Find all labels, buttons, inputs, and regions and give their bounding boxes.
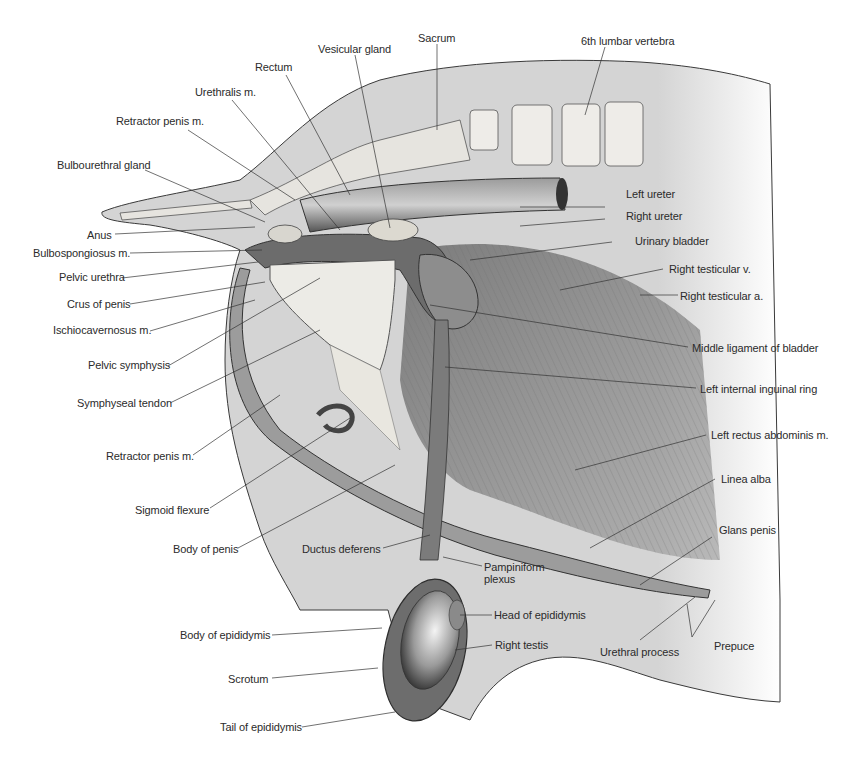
label-plexus: plexus: [484, 573, 515, 585]
label-6th-lumbar-vertebra: 6th lumbar vertebra: [581, 35, 674, 47]
label-bulbospongiosus: Bulbospongiosus m.: [33, 247, 130, 259]
label-left-rectus-abdominis: Left rectus abdominis m.: [711, 429, 828, 441]
vesicular-gland-shape: [368, 219, 418, 241]
label-linea-alba: Linea alba: [721, 473, 771, 485]
label-rectum: Rectum: [255, 61, 292, 73]
label-right-ureter: Right ureter: [626, 210, 682, 222]
label-vesicular-gland: Vesicular gland: [318, 43, 391, 55]
label-right-testicular-v: Right testicular v.: [669, 263, 751, 275]
label-crus-of-penis: Crus of penis: [67, 298, 131, 310]
label-right-testicular-a: Right testicular a.: [680, 290, 763, 302]
label-middle-ligament: Middle ligament of bladder: [692, 342, 818, 354]
anatomy-figure: Sacrum Vesicular gland Rectum Urethralis…: [0, 0, 852, 769]
label-bulbourethral-gland: Bulbourethral gland: [57, 159, 151, 171]
label-right-testis: Right testis: [495, 639, 548, 651]
label-urethral-process: Urethral process: [600, 646, 679, 658]
label-head-of-epididymis: Head of epididymis: [494, 609, 586, 621]
label-pampiniform: Pampiniform: [484, 561, 545, 573]
label-pelvic-urethra: Pelvic urethra: [59, 271, 125, 283]
label-anus: Anus: [87, 229, 112, 241]
label-body-of-epididymis: Body of epididymis: [180, 629, 271, 641]
label-tail-of-epididymis: Tail of epididymis: [220, 721, 302, 733]
label-retractor-penis-upper: Retractor penis m.: [116, 115, 204, 127]
label-urinary-bladder: Urinary bladder: [635, 235, 709, 247]
label-scrotum: Scrotum: [228, 673, 268, 685]
label-pelvic-symphysis: Pelvic symphysis: [88, 359, 170, 371]
label-sigmoid-flexure: Sigmoid flexure: [135, 504, 209, 516]
label-ischiocavernosus: Ischiocavernosus m.: [53, 324, 151, 336]
bulbourethral-gland-shape: [268, 225, 302, 243]
label-ductus-deferens: Ductus deferens: [302, 543, 381, 555]
label-retractor-penis-lower: Retractor penis m.: [106, 450, 194, 462]
label-symphyseal-tendon: Symphyseal tendon: [77, 397, 172, 409]
label-prepuce: Prepuce: [714, 640, 754, 652]
label-left-ureter: Left ureter: [626, 188, 675, 200]
label-sacrum: Sacrum: [418, 32, 455, 44]
label-left-internal-inguinal-ring: Left internal inguinal ring: [700, 383, 817, 395]
label-urethralis: Urethralis m.: [195, 86, 256, 98]
label-glans-penis: Glans penis: [719, 524, 776, 536]
label-body-of-penis: Body of penis: [173, 543, 238, 555]
